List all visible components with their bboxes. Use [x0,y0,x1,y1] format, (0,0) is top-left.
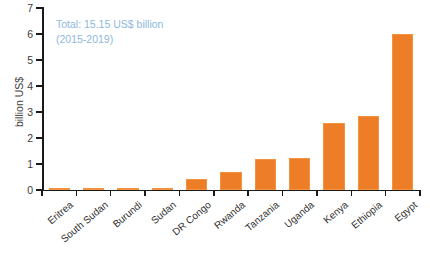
x-tick [76,190,77,196]
bar[interactable] [323,123,344,190]
x-tick [385,190,386,196]
y-tick-label: 7 [3,2,33,14]
x-tick [419,190,420,196]
x-tick [213,190,214,196]
y-tick-label: 0 [3,184,33,196]
total-annotation: Total: 15.15 US$ billion (2015-2019) [56,17,163,47]
x-tick [316,190,317,196]
x-tick [144,190,145,196]
y-tick-label: 6 [3,28,33,40]
x-tick [179,190,180,196]
bar[interactable] [117,188,138,190]
x-tick [110,190,111,196]
x-tick [247,190,248,196]
bar[interactable] [186,179,207,190]
x-tick [41,190,42,196]
bar[interactable] [49,188,70,190]
bar[interactable] [83,188,104,190]
y-tick-label: 3 [3,106,33,118]
y-tick-label: 5 [3,54,33,66]
bar[interactable] [255,159,276,190]
bar-chart: billion US$ 01234567 EritreaSouth SudanB… [0,0,430,263]
y-tick-label: 1 [3,158,33,170]
bar[interactable] [358,116,379,190]
bar[interactable] [152,188,173,190]
annotation-line-2: (2015-2019) [56,32,163,47]
x-tick [351,190,352,196]
bar[interactable] [220,172,241,190]
bar[interactable] [289,158,310,190]
x-tick [282,190,283,196]
y-tick-label: 4 [3,80,33,92]
bar[interactable] [392,34,413,190]
annotation-line-1: Total: 15.15 US$ billion [56,17,163,32]
y-tick-label: 2 [3,132,33,144]
